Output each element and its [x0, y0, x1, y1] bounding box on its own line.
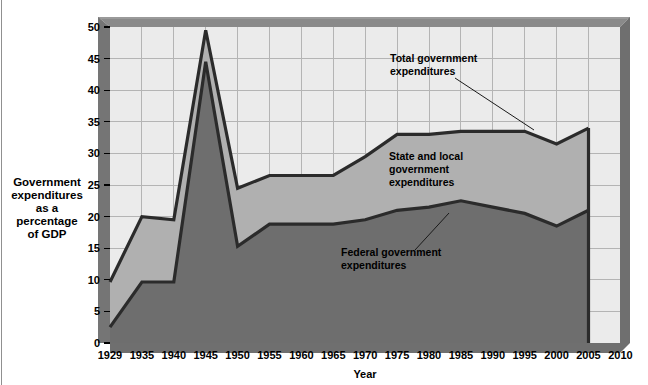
y-axis-title-line: percentage	[16, 215, 77, 227]
x-tick-label: 1945	[193, 349, 217, 361]
y-tick-label: 15	[88, 242, 100, 254]
y-axis-title-line: as a	[36, 202, 59, 214]
frame-top-edge	[98, 17, 630, 19]
x-tick-label: 1995	[512, 349, 536, 361]
y-axis-title-line: of GDP	[28, 228, 67, 240]
x-tick-label: 1929	[98, 349, 122, 361]
y-tick-label: 45	[88, 53, 100, 65]
y-tick-label: 5	[94, 305, 100, 317]
x-tick-label: 1960	[289, 349, 313, 361]
x-tick-label: 1975	[385, 349, 409, 361]
annotation-label-line: State and local	[389, 150, 463, 162]
annotation-label-line: Federal government	[341, 246, 442, 258]
y-tick-label: 50	[88, 21, 100, 33]
y-tick-label: 25	[88, 179, 100, 191]
x-tick-label: 1985	[449, 349, 473, 361]
chart-figure: 0 5 10 15 20 25 30 35 40 45 50 1929 1935…	[0, 0, 648, 385]
annotation-label-line: Total government	[390, 52, 478, 64]
y-tick-label: 20	[88, 211, 100, 223]
x-tick-label: 1935	[130, 349, 154, 361]
x-tick-label: 2010	[608, 349, 632, 361]
x-axis-tick-labels: 1929 1935 1940 1945 1950 1955 1960 1965 …	[98, 349, 633, 361]
y-tick-label: 30	[88, 147, 100, 159]
y-tick-label: 10	[88, 274, 100, 286]
y-tick-label: 40	[88, 84, 100, 96]
annotation-label-line: government	[389, 163, 450, 175]
y-tick-label: 0	[94, 337, 100, 349]
y-axis-title-line: Government	[13, 176, 81, 188]
annotation-label-line: expenditures	[341, 259, 407, 271]
x-tick-label: 1940	[162, 349, 186, 361]
frame-right-bevel	[620, 17, 630, 343]
x-tick-label: 2005	[576, 349, 600, 361]
annotation-label-line: expenditures	[389, 176, 455, 188]
x-tick-label: 1955	[257, 349, 281, 361]
x-tick-label: 1965	[321, 349, 345, 361]
y-axis-title-line: expenditures	[11, 189, 83, 201]
x-tick-label: 1970	[353, 349, 377, 361]
expenditures-area-chart: 0 5 10 15 20 25 30 35 40 45 50 1929 1935…	[0, 0, 648, 385]
x-tick-label: 2000	[544, 349, 568, 361]
x-axis-title: Year	[353, 368, 377, 380]
x-tick-label: 1950	[225, 349, 249, 361]
x-tick-label: 1980	[417, 349, 441, 361]
annotation-label-line: expenditures	[390, 65, 456, 77]
x-tick-label: 1990	[481, 349, 505, 361]
y-tick-label: 35	[88, 116, 100, 128]
